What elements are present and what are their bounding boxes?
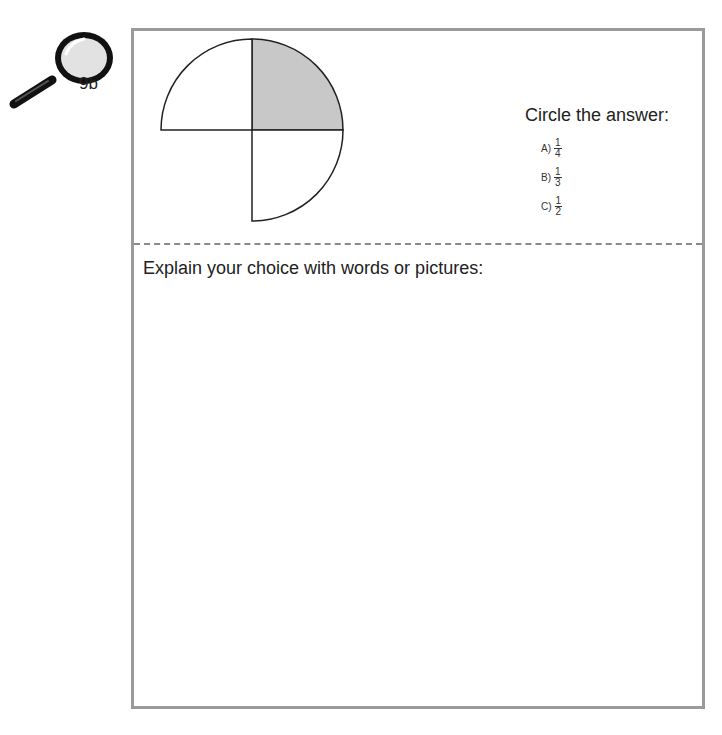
fraction: 1 4 [554, 138, 562, 159]
problem-number: 9b [79, 74, 98, 94]
option-letter: C) [541, 201, 552, 212]
option-a[interactable]: A) 1 4 [541, 134, 669, 163]
dashed-divider [134, 243, 702, 245]
fraction: 1 3 [554, 167, 562, 188]
option-letter: A) [541, 143, 551, 154]
answer-section: Circle the answer: A) 1 4 B) 1 3 C) 1 2 [525, 105, 669, 221]
explain-prompt: Explain your choice with words or pictur… [143, 258, 483, 279]
denominator: 4 [555, 149, 561, 159]
circle-answer-prompt: Circle the answer: [525, 105, 669, 126]
problem-badge: 9b [8, 26, 118, 116]
option-c[interactable]: C) 1 2 [541, 192, 669, 221]
magnifying-glass-icon [8, 26, 118, 116]
denominator: 3 [555, 178, 561, 188]
answer-options: A) 1 4 B) 1 3 C) 1 2 [541, 134, 669, 221]
fraction-figure [160, 38, 344, 228]
fraction: 1 2 [555, 196, 563, 217]
option-letter: B) [541, 172, 551, 183]
explanation-answer-area[interactable] [134, 285, 702, 703]
option-b[interactable]: B) 1 3 [541, 163, 669, 192]
denominator: 2 [556, 207, 562, 217]
